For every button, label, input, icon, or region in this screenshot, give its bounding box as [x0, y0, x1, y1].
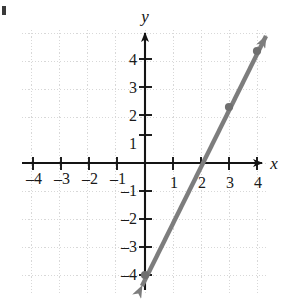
- y-tick-label: –4: [120, 266, 137, 283]
- plotted-line: [142, 36, 266, 286]
- x-tick-label: –2: [81, 170, 98, 187]
- y-axis-label: y: [139, 7, 149, 26]
- plotted-line-group: [141, 36, 266, 286]
- y-tick-label: 1: [129, 135, 137, 152]
- y-tick-label: 4: [129, 51, 137, 68]
- coordinate-plane-svg: –4 –3 –2 –1 1 2 3 4 4 3 2 1 –1 –2 –3 –4 …: [0, 0, 291, 300]
- data-point-marker: [141, 271, 149, 279]
- data-point-marker: [225, 103, 233, 111]
- x-tick-label: –3: [53, 170, 70, 187]
- x-tick-label: –4: [25, 170, 42, 187]
- y-tick-label: –2: [120, 210, 137, 227]
- y-tick-label: 2: [129, 107, 137, 124]
- graph-figure: –4 –3 –2 –1 1 2 3 4 4 3 2 1 –1 –2 –3 –4 …: [0, 0, 291, 300]
- x-tick-label: 3: [226, 174, 234, 191]
- y-tick-label: –3: [120, 238, 137, 255]
- axes: [22, 33, 262, 290]
- y-tick-labels: 4 3 2 1 –1 –2 –3 –4: [120, 51, 137, 283]
- x-tick-label: 2: [198, 174, 206, 191]
- x-axis-label: x: [269, 154, 278, 173]
- data-point-marker: [253, 47, 261, 55]
- x-tick-labels: –4 –3 –2 –1 1 2 3 4: [25, 170, 262, 191]
- y-tick-label: 3: [129, 79, 137, 96]
- x-tick-label: 4: [254, 174, 262, 191]
- y-tick-label: –1: [120, 182, 137, 199]
- x-tick-label: 1: [170, 174, 178, 191]
